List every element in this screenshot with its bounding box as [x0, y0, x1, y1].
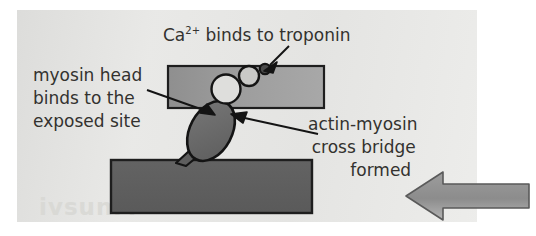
cross-bridge-label-line3: formed: [308, 159, 417, 182]
cross-bridge-label: actin-myosin cross bridge formed: [308, 113, 417, 182]
calcium-label: Ca2+ binds to troponin: [163, 24, 350, 47]
cross-bridge-label-line2: cross bridge: [308, 136, 417, 159]
troponin-circle-large: [212, 75, 241, 104]
myosin-head-label-line2: binds to the: [33, 87, 142, 110]
cross-bridge-leader-line: [240, 117, 318, 134]
myosin-head-label-line3: exposed site: [33, 110, 142, 133]
cross-bridge-label-line1: actin-myosin: [308, 113, 417, 136]
sliding-direction-arrow: [406, 172, 529, 220]
figure-canvas: ivsunM: [0, 0, 536, 236]
calcium-label-suffix: binds to troponin: [200, 25, 350, 45]
myosin-filament: [111, 160, 312, 213]
calcium-label-superscript: 2+: [185, 25, 200, 36]
myosin-head-label-line1: myosin head: [33, 64, 142, 87]
myosin-head-label: myosin head binds to the exposed site: [33, 64, 142, 133]
calcium-leader-line: [270, 46, 289, 65]
troponin-circle-medium: [239, 66, 259, 86]
calcium-label-prefix: Ca: [163, 25, 185, 45]
